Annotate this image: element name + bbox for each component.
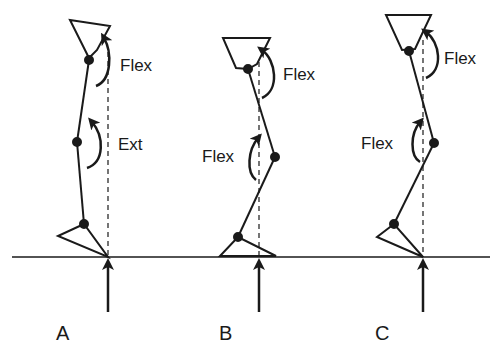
hip-joint <box>85 56 93 64</box>
hip-moment-arrow-icon <box>262 50 274 98</box>
ankle-joint <box>80 220 88 228</box>
panel-a-label: A <box>56 322 70 344</box>
panel-c-knee-label: Flex <box>361 134 394 153</box>
pelvis-segment <box>386 15 431 50</box>
ankle-joint <box>390 220 398 228</box>
foot-segment <box>58 224 108 257</box>
panel-c <box>377 15 438 312</box>
knee-moment-arrow-icon <box>413 122 421 162</box>
thigh-segment <box>77 60 89 142</box>
panel-a <box>58 20 110 312</box>
knee-moment-arrow-icon <box>249 138 258 180</box>
knee-joint <box>430 139 438 147</box>
gait-moment-diagram: Flex Ext A Flex Flex B Flex Flex C <box>0 0 496 354</box>
hip-joint <box>405 47 413 55</box>
panel-c-hip-label: Flex <box>444 49 477 68</box>
hip-moment-arrow-icon <box>96 38 109 86</box>
shank-segment <box>77 142 84 224</box>
foot-segment <box>377 224 423 257</box>
knee-joint <box>73 138 81 146</box>
foot-segment <box>220 237 276 256</box>
panel-a-hip-label: Flex <box>120 56 153 75</box>
hip-moment-arrow-icon <box>426 32 438 78</box>
ankle-joint <box>234 233 242 241</box>
thigh-segment <box>248 69 275 157</box>
shank-segment <box>238 157 275 237</box>
panel-b-hip-label: Flex <box>283 65 316 84</box>
knee-moment-arrow-icon <box>87 122 101 168</box>
panel-b-label: B <box>219 322 232 344</box>
panel-b <box>220 38 279 312</box>
panel-a-knee-label: Ext <box>118 135 143 154</box>
thigh-segment <box>409 51 434 143</box>
panel-b-knee-label: Flex <box>202 147 235 166</box>
knee-joint <box>271 153 279 161</box>
panel-c-label: C <box>375 322 389 344</box>
hip-joint <box>244 65 252 73</box>
